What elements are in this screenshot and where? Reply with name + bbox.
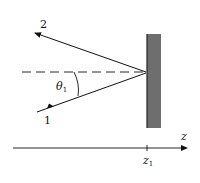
label-ray-out: 2 [40, 18, 47, 31]
reflected-ray [35, 33, 146, 72]
reflection-diagram: 2 1 θ1 z z1 [0, 0, 200, 183]
label-angle: θ1 [56, 80, 67, 94]
label-axis: z [180, 130, 187, 143]
angle-arc [74, 72, 79, 96]
wall [147, 34, 161, 128]
z-axis-arrow-icon [181, 145, 188, 151]
label-z1: z1 [142, 154, 153, 168]
label-ray-in: 1 [44, 114, 51, 127]
incident-arrow-icon [47, 104, 54, 109]
